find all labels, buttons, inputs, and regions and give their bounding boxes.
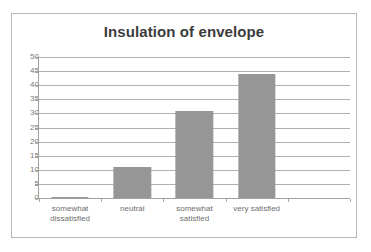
bar-slot[interactable]: [39, 57, 101, 198]
x-category-label-line: very satisfied: [218, 204, 295, 214]
x-tick-mark: [101, 199, 102, 202]
x-tick-mark: [39, 199, 40, 202]
x-tick-mark: [350, 199, 351, 202]
x-tick-mark: [288, 199, 289, 202]
plot-area: [39, 57, 350, 198]
x-tick-mark: [226, 199, 227, 202]
bar-slot[interactable]: [226, 57, 288, 198]
bar[interactable]: [114, 167, 151, 198]
bar[interactable]: [176, 111, 213, 198]
x-category-label: very satisfied: [218, 204, 295, 214]
x-category-label-line: dissatisfied: [32, 214, 109, 224]
x-tick-mark: [163, 199, 164, 202]
bar-slot[interactable]: [101, 57, 163, 198]
bar-slot[interactable]: [288, 57, 350, 198]
bar[interactable]: [238, 74, 275, 198]
bar-slot[interactable]: [163, 57, 225, 198]
bar[interactable]: [51, 197, 88, 198]
chart-title: Insulation of envelope: [12, 23, 356, 40]
gridline: [39, 198, 350, 199]
chart-container: Insulation of envelope 05101520253035404…: [11, 13, 357, 238]
x-category-label-line: satisfied: [156, 214, 233, 224]
